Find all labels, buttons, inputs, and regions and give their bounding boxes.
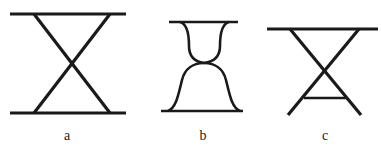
figure-b-upper-left-curve bbox=[180, 22, 204, 63]
figure-c bbox=[267, 29, 378, 115]
figure-c-label: c bbox=[322, 129, 328, 143]
figure-b bbox=[161, 22, 243, 111]
figure-a bbox=[10, 14, 126, 113]
figure-b-label: b bbox=[200, 129, 207, 143]
figure-b-lower-left-curve bbox=[168, 63, 204, 111]
figure-b-lower-right-curve bbox=[204, 63, 240, 111]
figure-a-label: a bbox=[64, 129, 70, 143]
figure-b-upper-right-curve bbox=[204, 22, 229, 63]
